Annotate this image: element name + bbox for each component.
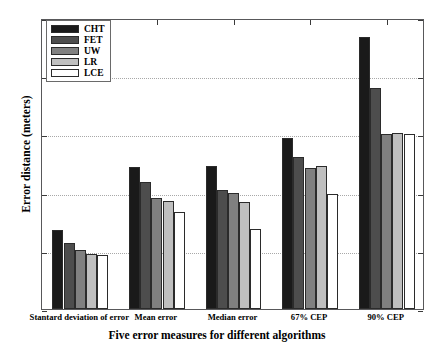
bar-LCE-1 [174, 212, 185, 309]
bar-CHT-4 [359, 37, 370, 309]
bar-CHT-0 [52, 230, 63, 309]
legend-label-UW: UW [84, 46, 100, 56]
bar-FET-4 [370, 88, 381, 309]
bar-LR-3 [316, 166, 327, 309]
bar-FET-0 [64, 243, 75, 309]
bar-CHT-1 [129, 167, 140, 309]
x-axis-title: Five error measures for different algori… [0, 329, 434, 341]
x-tick-label-0: Stantard deviation of error [30, 312, 129, 322]
legend-swatch-CHT [51, 25, 79, 33]
legend-swatch-LCE [51, 69, 79, 77]
bar-LR-4 [392, 133, 403, 309]
bar-CHT-2 [206, 166, 217, 309]
bar-UW-3 [305, 168, 316, 309]
legend-swatch-FET [51, 36, 79, 44]
legend-item-LCE: LCE [51, 68, 105, 78]
bar-LR-0 [86, 254, 97, 309]
legend-item-UW: UW [51, 46, 105, 56]
legend-item-FET: FET [51, 35, 105, 45]
bar-UW-4 [381, 134, 392, 309]
bar-chart: Error distance (meters) 050100150200250 … [0, 0, 434, 354]
bar-UW-0 [75, 250, 86, 309]
bar-LCE-0 [97, 255, 108, 309]
x-tick-label-1: Mean error [135, 312, 178, 322]
bar-LCE-2 [250, 229, 261, 309]
x-tick-label-2: Median error [208, 312, 258, 322]
bar-CHT-3 [282, 138, 293, 309]
legend-item-LR: LR [51, 57, 105, 67]
bar-LCE-3 [327, 194, 338, 309]
legend-swatch-LR [51, 58, 79, 66]
bar-LR-1 [163, 201, 174, 309]
bar-LCE-4 [404, 134, 415, 309]
legend-swatch-UW [51, 47, 79, 55]
legend-label-CHT: CHT [84, 24, 105, 34]
x-tick-label-3: 67% CEP [291, 312, 328, 322]
bar-FET-1 [140, 182, 151, 309]
y-tick-right-0 [418, 311, 423, 312]
x-tick-label-4: 90% CEP [367, 312, 404, 322]
bar-LR-2 [239, 202, 250, 309]
legend-label-LCE: LCE [84, 68, 104, 78]
legend-item-CHT: CHT [51, 24, 105, 34]
legend: CHTFETUWLRLCE [46, 20, 111, 82]
y-axis-title: Error distance (meters) [20, 44, 32, 264]
bar-UW-2 [228, 193, 239, 309]
legend-label-LR: LR [84, 57, 97, 67]
bar-FET-2 [217, 190, 228, 309]
bar-FET-3 [293, 157, 304, 309]
bar-UW-1 [151, 198, 162, 309]
legend-label-FET: FET [84, 35, 102, 45]
